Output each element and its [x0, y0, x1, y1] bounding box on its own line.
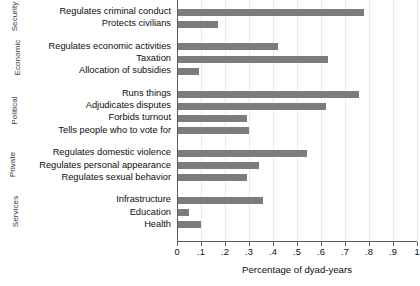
bar — [177, 43, 278, 50]
category-label: Regulates domestic violence — [53, 147, 171, 157]
x-tick-mark — [369, 242, 370, 246]
x-tick-label: .3 — [245, 247, 253, 257]
bar — [177, 91, 359, 98]
category-label: Education — [130, 207, 171, 217]
bar — [177, 197, 263, 204]
category-label: Runs things — [122, 88, 171, 98]
x-tick-mark — [321, 242, 322, 246]
group-label-text: Services — [11, 195, 20, 226]
gridline — [345, 0, 346, 240]
group-label: Security — [0, 12, 22, 21]
gridline — [249, 0, 250, 240]
category-label: Regulates economic activities — [49, 41, 171, 51]
bar — [177, 209, 189, 216]
gridline — [297, 0, 298, 240]
bar — [177, 174, 247, 181]
bar — [177, 115, 247, 122]
x-tick-label: .1 — [197, 247, 205, 257]
x-tick-mark — [393, 242, 394, 246]
gridline — [393, 0, 394, 240]
gridline — [417, 0, 418, 240]
x-tick-label: 1 — [414, 247, 419, 257]
x-tick-label: 0 — [174, 247, 179, 257]
category-label: Forbids turnout — [108, 112, 171, 122]
plot-area — [177, 0, 417, 240]
x-tick-mark — [345, 242, 346, 246]
gridline — [369, 0, 370, 240]
x-tick-mark — [297, 242, 298, 246]
group-label: Services — [0, 207, 22, 216]
category-label: Protects civilians — [102, 18, 171, 28]
category-label: Regulates criminal conduct — [59, 6, 171, 16]
gridline — [273, 0, 274, 240]
category-label: Tells people who to vote for — [58, 125, 171, 135]
category-label-axis: Regulates criminal conductProtects civil… — [20, 0, 174, 240]
x-tick-mark — [273, 242, 274, 246]
bar — [177, 127, 249, 134]
gridline — [321, 0, 322, 240]
group-axis: SecurityEconomicPoliticalPrivateServices — [0, 0, 22, 240]
group-label: Political — [0, 106, 22, 115]
x-tick-label: .8 — [365, 247, 373, 257]
x-tick-label: .2 — [221, 247, 229, 257]
bar — [177, 162, 259, 169]
group-label-text: Political — [10, 97, 19, 125]
category-label: Health — [144, 219, 171, 229]
bar — [177, 150, 307, 157]
x-tick-mark — [201, 242, 202, 246]
category-label: Regulates sexual behavior — [61, 172, 171, 182]
x-tick-mark — [177, 242, 178, 246]
bar — [177, 103, 326, 110]
group-label: Economic — [0, 53, 22, 62]
category-label: Regulates personal appearance — [39, 160, 171, 170]
group-label: Private — [0, 160, 22, 169]
bar — [177, 68, 199, 75]
x-axis-title: Percentage of dyad-years — [177, 264, 417, 275]
bar — [177, 9, 364, 16]
x-tick-label: .4 — [269, 247, 277, 257]
category-label: Adjudicates disputes — [86, 100, 171, 110]
category-label: Infrastructure — [116, 194, 171, 204]
group-label-text: Security — [10, 2, 19, 32]
x-tick-mark — [417, 242, 418, 246]
y-axis-line — [177, 0, 178, 241]
x-tick-label: .9 — [389, 247, 397, 257]
x-tick-label: .5 — [293, 247, 301, 257]
bar — [177, 221, 201, 228]
x-tick-mark — [249, 242, 250, 246]
category-label: Allocation of subsidies — [79, 65, 171, 75]
x-tick-mark — [225, 242, 226, 246]
bar — [177, 21, 218, 28]
x-tick-label: .7 — [341, 247, 349, 257]
bar — [177, 56, 328, 63]
category-label: Taxation — [136, 53, 171, 63]
group-label-text: Private — [8, 151, 17, 177]
x-tick-label: .6 — [317, 247, 325, 257]
